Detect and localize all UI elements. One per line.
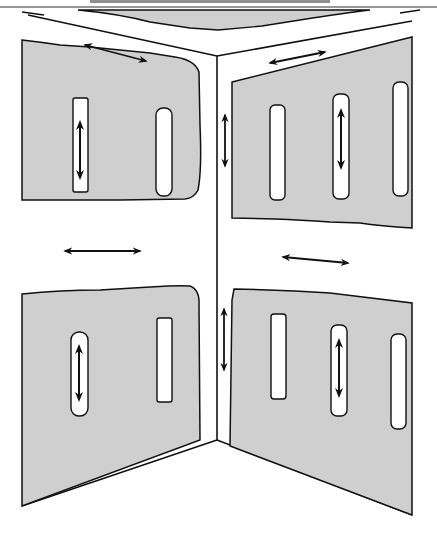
upper-left-panel <box>22 40 201 200</box>
upper-right-panel <box>232 37 412 228</box>
lower-left-panel <box>22 286 200 506</box>
slot <box>157 318 172 402</box>
slot <box>270 105 285 200</box>
slot <box>156 108 172 196</box>
lower-right-panel <box>230 289 412 515</box>
mid-right-arrow <box>283 257 348 263</box>
slot <box>391 334 406 429</box>
slot <box>393 82 408 196</box>
slot <box>271 314 286 399</box>
header-rule <box>0 0 437 7</box>
corner-wall-diagram <box>0 0 437 538</box>
